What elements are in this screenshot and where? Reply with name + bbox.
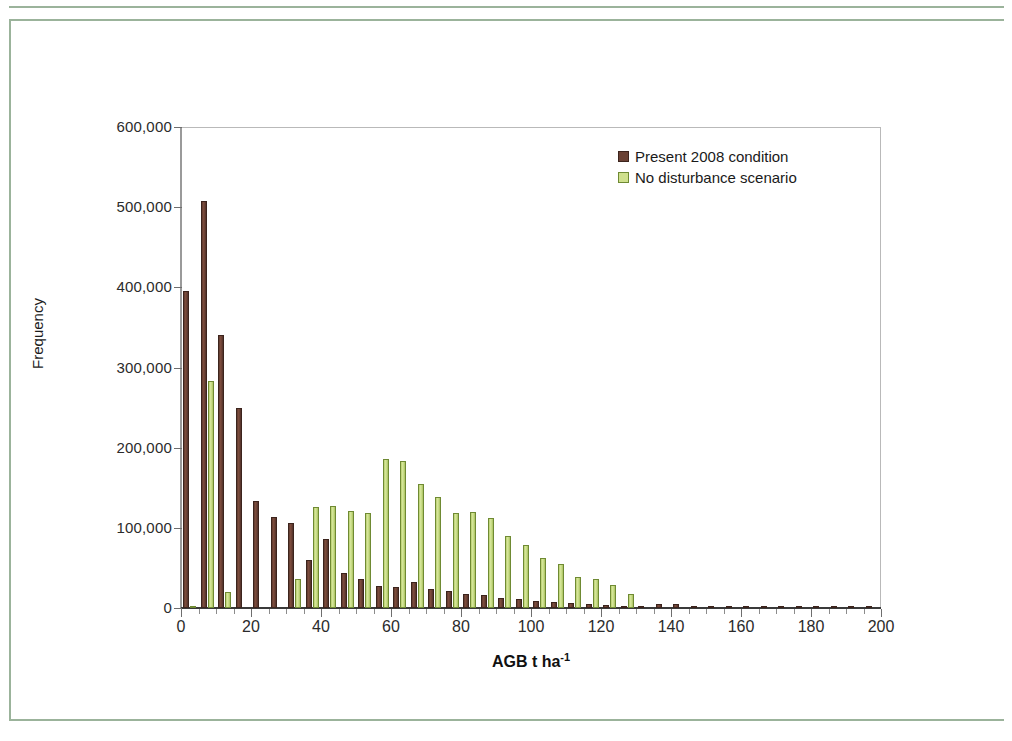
x-tick-minor bbox=[759, 609, 760, 614]
bar-nodisturbance bbox=[348, 511, 354, 608]
bar-present bbox=[848, 606, 854, 608]
x-tick-minor bbox=[706, 609, 707, 614]
x-axis-title-main: AGB t ha bbox=[492, 653, 560, 670]
x-tick-minor bbox=[689, 609, 690, 614]
x-tick-minor bbox=[444, 609, 445, 614]
bar-nodisturbance bbox=[400, 461, 406, 609]
bar-present bbox=[866, 606, 872, 608]
x-tick-minor bbox=[549, 609, 550, 614]
bar-present bbox=[813, 606, 819, 608]
x-tick-minor bbox=[864, 609, 865, 614]
bar-nodisturbance bbox=[488, 518, 494, 608]
bar-present bbox=[481, 595, 487, 608]
bar-present bbox=[358, 579, 364, 608]
bar-nodisturbance bbox=[365, 513, 371, 608]
bar-present bbox=[393, 587, 399, 608]
bar-present bbox=[463, 594, 469, 608]
bar-present bbox=[568, 603, 574, 608]
bar-present bbox=[673, 604, 679, 608]
bar-present bbox=[183, 291, 189, 608]
bar-chart-figure: 0100,000200,000300,000400,000500,000600,… bbox=[0, 0, 1012, 741]
legend-row: Present 2008 condition bbox=[618, 146, 797, 167]
x-tick-minor bbox=[846, 609, 847, 614]
y-tick-mark bbox=[174, 127, 182, 128]
x-tick-label: 140 bbox=[641, 618, 701, 636]
bar-nodisturbance bbox=[540, 558, 546, 608]
x-tick-major bbox=[811, 609, 812, 617]
x-tick-minor bbox=[776, 609, 777, 614]
bar-present bbox=[708, 606, 714, 608]
legend-row: No disturbance scenario bbox=[618, 167, 797, 188]
x-tick-minor bbox=[479, 609, 480, 614]
bar-nodisturbance bbox=[593, 579, 599, 608]
x-tick-major bbox=[461, 609, 462, 617]
bar-nodisturbance bbox=[523, 545, 529, 608]
x-tick-major bbox=[881, 609, 882, 617]
x-tick-label: 60 bbox=[361, 618, 421, 636]
x-tick-minor bbox=[496, 609, 497, 614]
bar-nodisturbance bbox=[208, 381, 214, 608]
x-tick-label: 0 bbox=[151, 618, 211, 636]
x-tick-minor bbox=[234, 609, 235, 614]
bar-present bbox=[603, 605, 609, 608]
bar-present bbox=[376, 586, 382, 608]
x-tick-major bbox=[601, 609, 602, 617]
bar-nodisturbance bbox=[295, 579, 301, 608]
x-tick-minor bbox=[636, 609, 637, 614]
bar-present bbox=[341, 573, 347, 608]
bar-nodisturbance bbox=[610, 585, 616, 608]
bar-present bbox=[796, 606, 802, 608]
x-tick-label: 120 bbox=[571, 618, 631, 636]
x-tick-minor bbox=[216, 609, 217, 614]
y-tick-mark bbox=[174, 528, 182, 529]
bar-nodisturbance bbox=[628, 594, 634, 608]
bar-nodisturbance bbox=[435, 497, 441, 608]
bar-nodisturbance bbox=[383, 459, 389, 608]
bar-present bbox=[323, 539, 329, 608]
x-tick-major bbox=[741, 609, 742, 617]
legend-label: No disturbance scenario bbox=[635, 169, 797, 186]
x-tick-minor bbox=[286, 609, 287, 614]
y-tick-mark bbox=[174, 608, 182, 609]
bar-present bbox=[621, 606, 627, 608]
bar-nodisturbance bbox=[190, 606, 196, 608]
bar-nodisturbance bbox=[313, 507, 319, 608]
bar-present bbox=[218, 335, 224, 608]
y-tick-mark bbox=[174, 368, 182, 369]
y-tick-label: 600,000 bbox=[86, 118, 172, 135]
bar-present bbox=[253, 501, 259, 608]
bar-present bbox=[236, 408, 242, 608]
chart-legend: Present 2008 conditionNo disturbance sce… bbox=[618, 146, 797, 188]
bar-present bbox=[778, 606, 784, 608]
legend-swatch-icon bbox=[618, 151, 629, 162]
x-tick-major bbox=[531, 609, 532, 617]
x-tick-minor bbox=[339, 609, 340, 614]
x-tick-major bbox=[671, 609, 672, 617]
y-tick-label: 400,000 bbox=[86, 278, 172, 295]
bar-nodisturbance bbox=[470, 512, 476, 608]
y-tick-mark bbox=[174, 287, 182, 288]
bar-nodisturbance bbox=[225, 592, 231, 608]
x-tick-label: 20 bbox=[221, 618, 281, 636]
x-tick-minor bbox=[374, 609, 375, 614]
bar-nodisturbance bbox=[330, 506, 336, 608]
y-tick-label: 500,000 bbox=[86, 198, 172, 215]
bar-present bbox=[201, 201, 207, 608]
y-tick-mark bbox=[174, 207, 182, 208]
x-tick-label: 180 bbox=[781, 618, 841, 636]
bar-present bbox=[306, 560, 312, 608]
x-tick-minor bbox=[584, 609, 585, 614]
y-tick-label: 0 bbox=[86, 599, 172, 616]
bar-nodisturbance bbox=[418, 484, 424, 608]
x-tick-minor bbox=[409, 609, 410, 614]
bar-present bbox=[446, 591, 452, 608]
x-tick-minor bbox=[304, 609, 305, 614]
bar-present bbox=[831, 606, 837, 608]
y-tick-mark bbox=[174, 448, 182, 449]
bar-present bbox=[498, 598, 504, 608]
bar-present bbox=[743, 606, 749, 608]
y-tick-label: 200,000 bbox=[86, 439, 172, 456]
legend-swatch-icon bbox=[618, 172, 629, 183]
x-tick-label: 40 bbox=[291, 618, 351, 636]
x-axis-title: AGB t ha-1 AGB t ha-1 bbox=[181, 651, 881, 671]
